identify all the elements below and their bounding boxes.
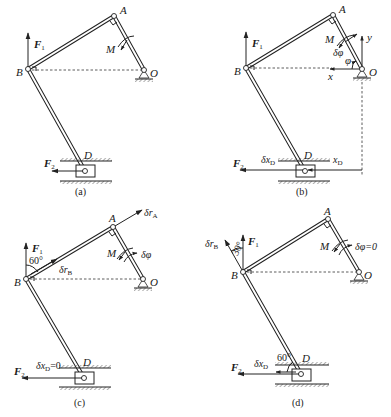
- link-bd: [246, 68, 305, 171]
- label-b: B: [16, 66, 23, 78]
- label-a: A: [323, 205, 331, 217]
- joint-a: [331, 13, 336, 18]
- label-a: A: [338, 3, 346, 15]
- label-d: D: [301, 352, 310, 364]
- label-f2: F2: [43, 157, 55, 171]
- link-bd: [243, 272, 301, 374]
- label-dphi: δφ: [141, 249, 152, 260]
- panel-b: y x φ xD δxD F1 F2 M δφ A B O: [232, 3, 377, 198]
- joint-o: [141, 277, 146, 282]
- label-b: B: [14, 276, 21, 288]
- slider-d: [278, 158, 330, 184]
- mechanism-figure: F1 F2 M A B O D (a): [0, 0, 391, 417]
- angle-phi-arc: [352, 61, 356, 69]
- label-dxd: δxD: [261, 154, 275, 167]
- label-m: M: [319, 240, 330, 252]
- link-ao: [113, 227, 143, 279]
- label-f2: F2: [230, 361, 242, 375]
- joint-o: [360, 67, 365, 72]
- label-d: D: [303, 149, 312, 161]
- joint-o: [357, 270, 362, 275]
- panel-d: δrB 30° F1 F2 δxD 60° M δφ=0 A B O D (d): [205, 205, 377, 409]
- virtual-displacement-a-arrow: [115, 210, 142, 226]
- label-dxd: δxD: [254, 358, 268, 371]
- label-f1: F1: [251, 37, 263, 51]
- joint-b: [244, 66, 249, 71]
- joint-o: [142, 68, 147, 73]
- joint-b: [241, 270, 246, 275]
- panel-c: δrA δrB 60° F1 F2 δxD=0 M δφ A B O D (c): [13, 207, 158, 409]
- label-a: A: [108, 212, 116, 224]
- joint-b: [24, 277, 29, 282]
- label-o: O: [369, 66, 377, 78]
- label-phi: φ: [345, 54, 351, 66]
- label-d: D: [82, 356, 91, 368]
- label-dphi: δφ: [333, 47, 344, 58]
- label-b: B: [234, 65, 241, 77]
- label-f1: F1: [31, 242, 43, 256]
- joint-b: [26, 67, 31, 72]
- label-drb: δrB: [59, 264, 73, 277]
- label-60deg: 60°: [277, 352, 291, 363]
- caption-c: (c): [74, 397, 85, 409]
- label-dxd-zero: δxD=0: [36, 360, 61, 373]
- label-y: y: [366, 31, 372, 43]
- label-f1: F1: [33, 38, 45, 52]
- label-a: A: [119, 4, 127, 16]
- caption-d: (d): [292, 397, 304, 409]
- label-d: D: [83, 149, 92, 161]
- label-m: M: [324, 33, 335, 45]
- link-bd: [28, 69, 85, 171]
- label-o: O: [150, 67, 158, 79]
- label-dphi-zero: δφ=0: [355, 241, 377, 252]
- label-f2: F2: [232, 157, 244, 171]
- label-b: B: [231, 269, 238, 281]
- label-f1: F1: [247, 235, 259, 249]
- label-m: M: [106, 247, 117, 259]
- label-f2: F2: [13, 365, 25, 379]
- label-x: x: [327, 70, 333, 82]
- label-m: M: [105, 43, 116, 55]
- panel-a: F1 F2 M A B O D (a): [16, 4, 158, 198]
- label-dra: δrA: [144, 207, 158, 220]
- label-drb: δrB: [205, 238, 219, 251]
- caption-b: (b): [296, 186, 308, 198]
- link-ao: [114, 16, 144, 70]
- joint-a: [112, 14, 117, 19]
- label-60deg: 60°: [29, 255, 43, 266]
- joint-a: [111, 225, 116, 230]
- joint-a: [326, 217, 331, 222]
- label-xd: xD: [332, 154, 343, 167]
- caption-a: (a): [75, 186, 86, 198]
- label-o: O: [364, 269, 372, 281]
- label-o: O: [150, 276, 158, 288]
